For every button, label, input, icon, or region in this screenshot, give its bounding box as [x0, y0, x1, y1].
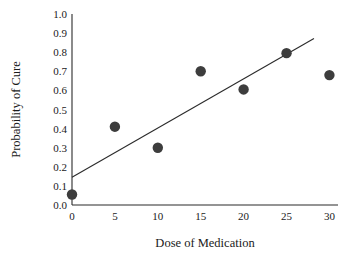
y-tick-label: 0.2: [53, 161, 67, 173]
regression-trend-line: [72, 38, 314, 177]
x-tick-label: 0: [69, 210, 75, 222]
data-point: [67, 189, 77, 199]
scatter-chart: 0.00.10.20.30.40.50.60.70.80.91.0 051015…: [0, 0, 364, 271]
data-point-group: [67, 48, 335, 200]
x-tick-label: 5: [112, 210, 118, 222]
y-tick-label: 0.1: [53, 180, 67, 192]
x-tick-label: 30: [324, 210, 336, 222]
y-tick-label: 0.3: [53, 142, 67, 154]
x-tick-label: 10: [152, 210, 164, 222]
data-point: [196, 66, 206, 76]
x-axis-tick-labels: 051015202530: [69, 210, 335, 222]
x-tick-label: 25: [281, 210, 293, 222]
data-point: [238, 84, 248, 94]
y-tick-label: 0.8: [53, 46, 67, 58]
data-point: [281, 48, 291, 58]
x-tick-label: 15: [195, 210, 207, 222]
x-tick-label: 20: [238, 210, 250, 222]
y-tick-label: 0.5: [53, 104, 67, 116]
data-point: [153, 143, 163, 153]
y-axis-title: Probability of Cure: [9, 61, 23, 158]
y-tick-label: 0.7: [53, 65, 67, 77]
y-tick-label: 0.4: [53, 123, 67, 135]
y-tick-label: 0.0: [53, 199, 67, 211]
y-tick-label: 0.9: [53, 27, 67, 39]
data-point: [324, 70, 334, 80]
plot-area: 0.00.10.20.30.40.50.60.70.80.91.0 051015…: [0, 0, 364, 271]
y-tick-label: 1.0: [53, 8, 67, 20]
y-axis-tick-labels: 0.00.10.20.30.40.50.60.70.80.91.0: [53, 8, 67, 211]
data-point: [110, 121, 120, 131]
y-tick-label: 0.6: [53, 84, 67, 96]
x-axis-title: Dose of Medication: [155, 236, 255, 250]
